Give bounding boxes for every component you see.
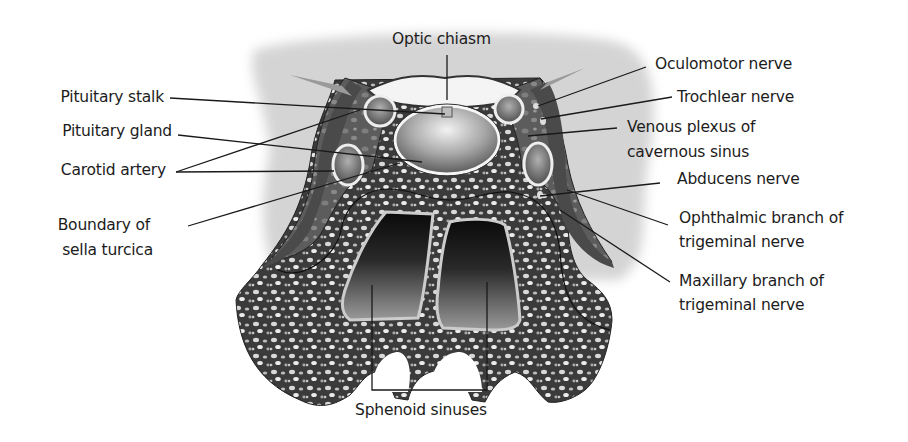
label-maxillary-line1: Maxillary branch of bbox=[679, 272, 824, 291]
pituitary-stalk bbox=[442, 107, 452, 117]
sphenoid-sinus-right bbox=[437, 219, 520, 330]
label-boundary-line2: sella turcica bbox=[62, 241, 153, 260]
label-venous-line1: Venous plexus of bbox=[627, 118, 755, 137]
label-optic-chiasm: Optic chiasm bbox=[392, 30, 491, 49]
carotid-artery-upper-right bbox=[495, 95, 523, 123]
label-pituitary-gland: Pituitary gland bbox=[62, 122, 172, 141]
label-ophthalmic-line1: Ophthalmic branch of bbox=[679, 209, 843, 228]
label-trochlear-nerve: Trochlear nerve bbox=[677, 88, 794, 107]
label-oculomotor-nerve: Oculomotor nerve bbox=[655, 55, 792, 74]
abducens-nerve-glyph bbox=[537, 191, 543, 199]
label-abducens-nerve: Abducens nerve bbox=[677, 170, 800, 189]
label-ophthalmic-line2: trigeminal nerve bbox=[679, 233, 804, 252]
carotid-artery-lower-right bbox=[524, 143, 552, 185]
label-sphenoid-sinuses: Sphenoid sinuses bbox=[355, 401, 487, 420]
label-carotid-artery: Carotid artery bbox=[61, 161, 166, 180]
label-maxillary-line2: trigeminal nerve bbox=[679, 296, 804, 315]
label-pituitary-stalk: Pituitary stalk bbox=[60, 88, 164, 107]
label-boundary-line1: Boundary of bbox=[58, 216, 150, 235]
label-venous-line2: cavernous sinus bbox=[627, 143, 749, 162]
